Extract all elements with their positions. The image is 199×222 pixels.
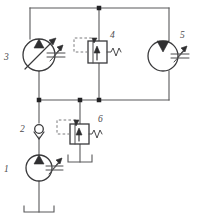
mid-valve6-junction [78, 98, 82, 102]
motor5-shaft-arrow-head [181, 46, 187, 52]
top-center-junction [97, 6, 101, 10]
component-2-check-valve[interactable]: 2 [20, 124, 44, 139]
valve4-spring [107, 48, 121, 56]
checkvalve2-ball [35, 125, 44, 134]
hydraulic-circuit-diagram: 3 4 5 [0, 0, 199, 222]
mid-left-junction [37, 98, 41, 102]
component-4-relief-valve[interactable]: 4 [74, 30, 121, 63]
component-1-fixed-pump[interactable]: 1 [4, 155, 63, 181]
label-3: 3 [3, 52, 9, 62]
label-4: 4 [110, 30, 115, 40]
label-5: 5 [180, 30, 185, 40]
mid-center-junction [97, 98, 101, 102]
component-3-variable-pump[interactable]: 3 [3, 38, 65, 71]
label-2: 2 [20, 124, 25, 134]
pump1-shaft-arrow-head [56, 158, 62, 164]
valve6-spring [89, 130, 102, 138]
circuit-canvas: 3 4 5 [0, 0, 199, 222]
pump3-shaft-arrow-head [57, 45, 63, 51]
piping-network [30, 8, 169, 212]
label-6: 6 [98, 114, 103, 124]
label-1: 1 [4, 164, 9, 174]
